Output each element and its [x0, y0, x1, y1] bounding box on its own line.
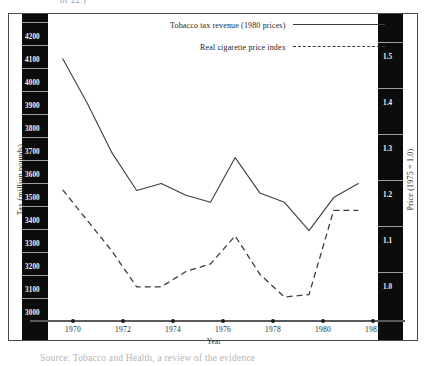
band-separator: [378, 134, 403, 135]
left-axis-tick-label: 3800: [25, 126, 40, 133]
x-axis-tick-dot: [221, 319, 225, 323]
left-axis-tick-label: 4100: [25, 57, 40, 64]
right-axis-tick-label: 1.3: [383, 146, 392, 153]
left-axis-title: Tax (million pounds): [16, 125, 25, 235]
band-separator: [378, 88, 403, 89]
left-axis-tick-label: 3000: [25, 310, 40, 317]
band-separator: [22, 22, 48, 23]
x-axis-tick-label: 1980: [315, 325, 331, 334]
left-axis-tick-label: 3900: [25, 103, 40, 110]
left-axis-tick-label: 3200: [25, 264, 40, 271]
left-axis-tick-label: 3100: [25, 287, 40, 294]
series-line-real-cigarette-price-index: [63, 190, 359, 297]
band-separator: [378, 272, 403, 273]
band-separator: [22, 229, 48, 230]
right-axis-title: Price (1975 = 1.0): [406, 125, 415, 235]
left-axis-tick-label: 3600: [25, 172, 40, 179]
series-lines-svg: [48, 14, 378, 320]
x-axis-tick-dot: [271, 319, 275, 323]
right-axis-tick-label: 1.0: [383, 284, 392, 291]
x-axis-tick-dot: [371, 319, 375, 323]
x-axis-tick-label: 1970: [65, 325, 81, 334]
left-axis-tick-label: 4000: [25, 80, 40, 87]
bottom-cropped-caption: Source: Tobacco and Health, a review of …: [40, 353, 420, 366]
band-separator: [22, 137, 48, 138]
band-separator: [378, 226, 403, 227]
right-axis-tick-label: 1.5: [383, 54, 392, 61]
x-axis-title: Year: [0, 337, 428, 346]
band-separator: [22, 183, 48, 184]
x-axis-tick-label: 1976: [215, 325, 231, 334]
band-separator: [22, 45, 48, 46]
series-line-tobacco-tax-revenue: [63, 59, 359, 231]
plot-area: [48, 14, 378, 320]
band-separator: [22, 91, 48, 92]
x-axis-line: [30, 320, 405, 322]
x-axis-tick-label: 1972: [115, 325, 131, 334]
left-axis-tick-label: 3500: [25, 195, 40, 202]
x-axis-tick-dot: [71, 319, 75, 323]
x-axis-tick-label: 1978: [265, 325, 281, 334]
x-axis-tick-label: 1982: [365, 325, 381, 334]
left-axis-tick-label: 3400: [25, 218, 40, 225]
x-axis-tick-label: 1974: [165, 325, 181, 334]
right-axis-tick-label: 1.2: [383, 192, 392, 199]
x-axis-tick-dot: [321, 319, 325, 323]
left-axis-tick-label: 3300: [25, 241, 40, 248]
right-axis-tick-label: 1.4: [383, 100, 392, 107]
right-axis-tick-label: 1.1: [383, 238, 392, 245]
band-separator: [378, 180, 403, 181]
left-axis-tick-label: 4200: [25, 34, 40, 41]
band-separator: [22, 275, 48, 276]
band-separator: [22, 206, 48, 207]
x-axis-tick-dot: [121, 319, 125, 323]
top-cropped-text: of 22.): [60, 0, 180, 7]
band-separator: [22, 252, 48, 253]
band-separator: [22, 114, 48, 115]
band-separator: [22, 68, 48, 69]
band-separator: [22, 160, 48, 161]
left-axis-tick-label: 3700: [25, 149, 40, 156]
band-separator: [22, 298, 48, 299]
x-axis-tick-dot: [171, 319, 175, 323]
